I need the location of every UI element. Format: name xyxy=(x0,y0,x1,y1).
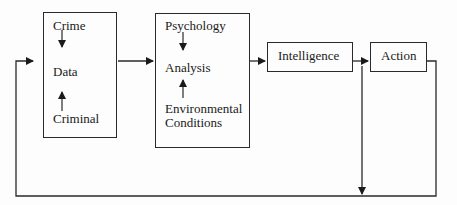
psychology-label: Psychology xyxy=(165,19,226,33)
environmental-label: Environmental xyxy=(165,102,242,116)
analysis-label: Analysis xyxy=(165,61,211,75)
data-label: Data xyxy=(53,65,78,79)
crime-label: Crime xyxy=(53,19,86,33)
intelligence-label: Intelligence xyxy=(278,49,339,63)
action-label: Action xyxy=(381,49,416,63)
criminal-label: Criminal xyxy=(53,112,99,126)
intelligence-cycle-diagram: Crime Data Criminal Psychology Analysis … xyxy=(0,0,457,205)
conditions-label: Conditions xyxy=(165,116,222,130)
